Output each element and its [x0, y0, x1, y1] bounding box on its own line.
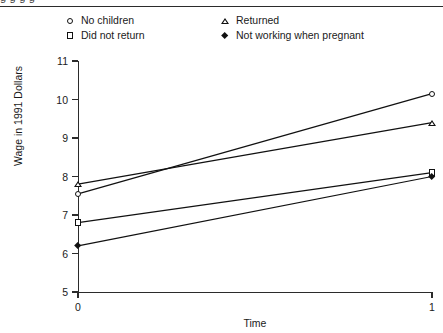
- series-line: [78, 94, 432, 194]
- square-icon: [71, 216, 85, 230]
- series-line: [78, 173, 432, 223]
- triangle-icon: [425, 116, 439, 130]
- series-lines: [0, 0, 443, 333]
- plot-area: 567891011 01 Wage in 1991 Dollars Time: [0, 0, 443, 333]
- circle-icon: [425, 87, 439, 101]
- y-axis-title: Wage in 1991 Dollars: [12, 36, 24, 196]
- series-line: [78, 123, 432, 185]
- figure-container: g g g g No children Did not return: [0, 0, 443, 333]
- x-axis-title: Time: [78, 317, 432, 329]
- series-line: [78, 177, 432, 246]
- diamond-icon: [71, 239, 85, 253]
- diamond-icon: [425, 170, 439, 184]
- triangle-icon: [71, 177, 85, 191]
